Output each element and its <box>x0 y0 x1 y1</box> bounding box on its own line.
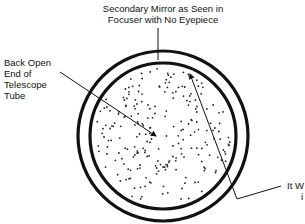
left-pointer-arrow <box>60 72 156 136</box>
telescope-diagram <box>0 0 305 224</box>
tube-outer-circle <box>78 51 248 221</box>
mirror-speckle-dots <box>96 68 230 200</box>
